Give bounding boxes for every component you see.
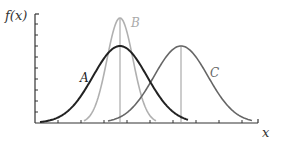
curve-centerlines [120, 18, 181, 123]
curve-c [108, 46, 252, 121]
curve-b-label: B [130, 16, 140, 30]
axes [35, 14, 258, 123]
curve-a-label: A [79, 71, 89, 85]
normal-distributions-chart: f(x) x A B C [0, 0, 281, 146]
x-axis-label: x [262, 125, 270, 140]
y-axis-label: f(x) [4, 8, 27, 23]
curve-c-label: C [210, 66, 219, 80]
